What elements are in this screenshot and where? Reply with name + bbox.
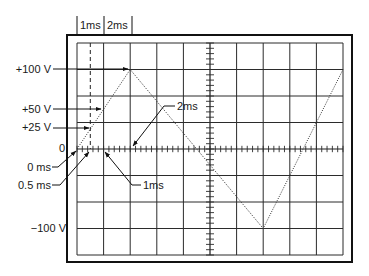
label-2ms: 2ms [177, 100, 198, 112]
label-plus-100v: +100 V [16, 63, 52, 75]
label-1ms: 1ms [143, 179, 164, 191]
label-plus-25v: +25 V [22, 121, 52, 133]
label-zero-volts: 0 [59, 142, 65, 154]
top-scale: 1ms 2ms [77, 16, 132, 35]
top-label-2ms: 2ms [107, 19, 128, 31]
top-label-1ms: 1ms [80, 19, 101, 31]
arrow-0-5ms [52, 152, 89, 185]
label-minus-100v: −100 V [31, 222, 67, 234]
arrow-1ms [105, 152, 141, 185]
arrow-2ms [133, 106, 175, 146]
oscilloscope-diagram: 1ms 2ms +100 V +50 V +25 V 0 −100 V 0 ms… [0, 0, 369, 276]
label-0-5ms: 0.5 ms [18, 179, 52, 191]
label-0ms: 0 ms [27, 161, 51, 173]
label-plus-50v: +50 V [22, 103, 52, 115]
